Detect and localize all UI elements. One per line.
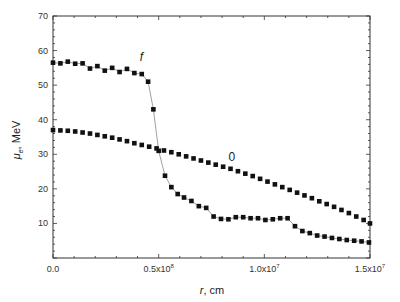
data-series: f0 <box>51 50 373 245</box>
data-point <box>189 199 194 204</box>
data-point <box>337 237 342 242</box>
data-point <box>359 239 364 244</box>
data-point <box>199 158 204 163</box>
data-point <box>175 192 180 197</box>
x-tick-label: 1.0x107 <box>249 263 280 274</box>
data-point <box>191 156 196 161</box>
data-point <box>147 144 152 149</box>
data-point <box>95 133 100 138</box>
data-point <box>51 128 56 133</box>
data-point <box>285 216 290 221</box>
data-point <box>88 131 93 136</box>
data-point <box>287 188 292 193</box>
y-tick-label: 10 <box>38 218 48 228</box>
data-point <box>117 70 122 75</box>
data-point <box>347 211 352 216</box>
y-tick-label: 60 <box>38 46 48 56</box>
x-axis: 0.00.5x1081.0x1071.5x107 <box>47 16 386 274</box>
data-point <box>213 162 218 167</box>
data-point <box>206 160 211 165</box>
data-point <box>139 72 144 77</box>
data-point <box>228 167 233 172</box>
data-point <box>317 199 322 204</box>
data-point <box>51 60 56 65</box>
data-point <box>132 71 137 76</box>
data-point <box>315 233 320 238</box>
data-point <box>73 61 78 66</box>
x-tick-label: 1.5x107 <box>355 263 386 274</box>
data-point <box>58 128 63 133</box>
data-point <box>125 67 130 72</box>
x-tick-label: 0.0 <box>47 264 60 274</box>
data-point <box>243 171 248 176</box>
data-point <box>236 169 241 174</box>
data-point <box>102 134 107 139</box>
data-point <box>125 139 130 144</box>
y-axis-label: μe, MeV <box>10 120 24 160</box>
data-point <box>162 148 167 153</box>
data-point <box>352 238 357 243</box>
data-point <box>324 202 329 207</box>
data-point <box>65 59 70 64</box>
data-point <box>102 68 107 73</box>
data-point <box>58 61 63 66</box>
data-point <box>169 150 174 155</box>
data-point <box>280 185 285 190</box>
series-label: 0 <box>228 150 235 164</box>
data-point <box>344 238 349 243</box>
data-point <box>73 129 78 134</box>
y-tick-label: 50 <box>38 80 48 90</box>
series-0: 0 <box>51 128 373 226</box>
data-point <box>211 214 216 219</box>
data-point <box>151 107 156 112</box>
y-tick-label: 20 <box>38 184 48 194</box>
chart: 10203040506070 0.00.5x1081.0x1071.5x107 … <box>0 0 400 302</box>
data-point <box>307 231 312 236</box>
data-point <box>354 214 359 219</box>
data-point <box>368 221 373 226</box>
data-point <box>184 154 189 159</box>
data-point <box>88 66 93 71</box>
data-point <box>219 217 224 222</box>
data-point <box>182 195 187 200</box>
data-point <box>154 146 159 151</box>
data-point <box>300 229 305 234</box>
data-point <box>361 218 366 223</box>
data-point <box>80 61 85 66</box>
data-point <box>248 216 253 221</box>
data-point <box>293 224 298 229</box>
data-point <box>221 164 226 169</box>
data-point <box>250 174 255 179</box>
data-point <box>110 135 115 140</box>
y-tick-label: 40 <box>38 115 48 125</box>
series-label: f <box>140 50 145 64</box>
data-point <box>339 208 344 213</box>
data-point <box>132 141 137 146</box>
data-point <box>332 205 337 210</box>
plot-area <box>53 16 370 258</box>
data-point <box>80 130 85 135</box>
data-point <box>302 193 307 198</box>
plot-frame <box>53 16 370 258</box>
data-point <box>367 240 372 245</box>
data-point <box>139 143 144 148</box>
data-point <box>256 216 261 221</box>
data-point <box>95 64 100 69</box>
data-point <box>146 79 151 84</box>
data-point <box>278 216 283 221</box>
x-axis-label: r, cm <box>200 284 224 296</box>
data-point <box>197 204 202 209</box>
data-point <box>330 236 335 241</box>
data-point <box>322 234 327 239</box>
x-tick-label: 0.5x108 <box>143 263 174 274</box>
data-point <box>117 137 122 142</box>
data-point <box>270 217 275 222</box>
data-point <box>226 217 231 222</box>
data-point <box>169 185 174 190</box>
data-point <box>110 66 115 71</box>
y-tick-label: 70 <box>38 11 48 21</box>
data-point <box>258 177 263 182</box>
data-point <box>295 190 300 195</box>
data-point <box>234 215 239 220</box>
data-point <box>176 152 181 157</box>
